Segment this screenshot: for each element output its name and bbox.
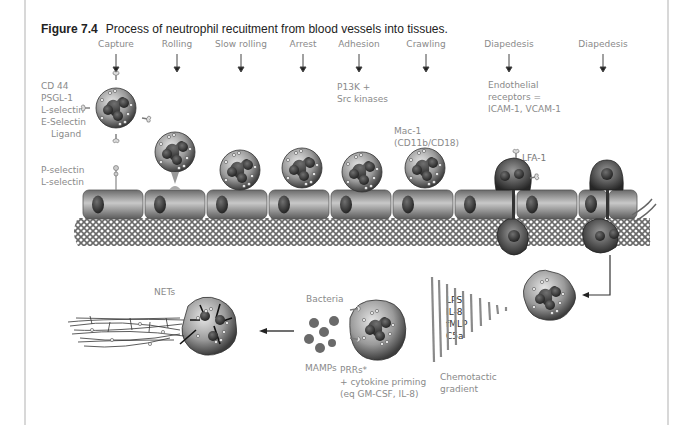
migration-arrow <box>588 255 610 295</box>
neutrophil-recruitment-diagram <box>0 0 685 425</box>
neutrophil-crawling <box>405 148 445 188</box>
neutrophil-adhesion <box>342 152 382 192</box>
neutrophil-netosis <box>180 297 237 355</box>
basement-membrane <box>74 218 650 246</box>
neutrophil-priming <box>349 300 405 360</box>
nets-fibers <box>68 316 184 347</box>
neutrophil-slow-rolling <box>220 150 260 190</box>
chemotactic-gradient-lines <box>432 277 506 362</box>
neutrophil-arrest <box>282 148 322 188</box>
neutrophil-rolling <box>155 132 195 190</box>
neutrophil-capture <box>81 71 151 190</box>
mamps-particles <box>304 316 339 353</box>
endothelium <box>83 190 637 219</box>
neutrophil-migrating <box>523 270 575 320</box>
stage-arrows <box>113 54 606 72</box>
